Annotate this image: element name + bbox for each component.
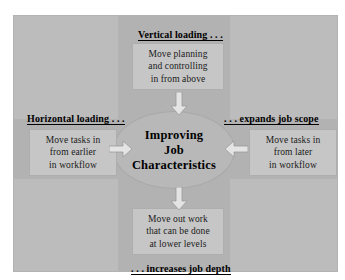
textbox-top-line-1: Move planning (148, 48, 207, 61)
textbox-bottom: Move out work that can be done at lower … (132, 208, 224, 255)
textbox-left-line-1: Move tasks in (46, 134, 101, 147)
diagram-root: Vertical loading . . . Horizontal loadin… (0, 0, 345, 280)
textbox-right-line-1: Move tasks in (266, 134, 321, 147)
textbox-right-line-2: from later (266, 146, 321, 159)
textbox-right-line-3: in workflow (266, 159, 321, 172)
textbox-bottom-line-3: at lower levels (146, 238, 210, 251)
textbox-left-line-3: in workflow (46, 159, 101, 172)
diagram-panel: Vertical loading . . . Horizontal loadin… (13, 15, 338, 272)
arrow-down-icon (170, 92, 188, 116)
textbox-top-line-2: and controlling (148, 60, 207, 73)
textbox-top-line-3: in from above (148, 73, 207, 86)
heading-vertical-loading: Vertical loading . . . (138, 29, 223, 41)
center-label-line-1: Improving (145, 128, 204, 143)
textbox-left-line-2: from earlier (46, 146, 101, 159)
center-label-line-2: Job (164, 143, 184, 158)
textbox-bottom-line-2: that can be done (146, 225, 210, 238)
textbox-bottom-line-1: Move out work (146, 213, 210, 226)
center-label-line-3: Characteristics (132, 158, 216, 173)
arrow-left-icon (224, 140, 248, 158)
arrow-right-icon (109, 140, 133, 158)
arrow-down-icon (170, 187, 188, 211)
textbox-right: Move tasks in from later in workflow (249, 129, 337, 176)
heading-increases-job-depth: . . . increases job depth (131, 263, 231, 275)
textbox-top: Move planning and controlling in from ab… (132, 43, 224, 90)
textbox-left: Move tasks in from earlier in workflow (29, 129, 117, 176)
